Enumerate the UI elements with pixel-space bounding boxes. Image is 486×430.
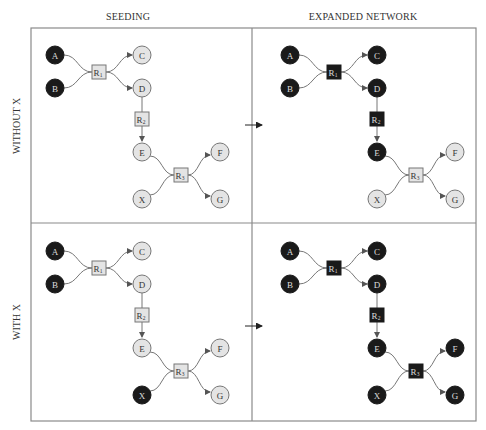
node-label: E [139,344,145,354]
node-label: E [374,148,380,158]
column-title-seeding: SEEDING [106,11,150,22]
edge-e-r3 [385,352,409,371]
node-label: E [374,344,380,354]
reaction-r3: R3 [174,168,188,182]
node-label: X [374,391,381,401]
node-label: F [452,148,457,158]
figure-frame [31,28,476,421]
node-label: G [217,391,224,401]
edge-e-r3 [385,156,409,175]
node-label: B [287,280,293,290]
node-label: G [452,195,459,205]
edge-r3-g [423,175,445,196]
edge-a-r1 [64,251,92,268]
network-expansion-figure: SEEDING EXPANDED NETWORK WITHOUT X WITH … [0,0,486,430]
node-label: B [52,280,58,290]
node-label: D [139,84,146,94]
edge-r1-d [106,268,132,284]
row-title-without-x: WITHOUT X [11,97,22,154]
node-x: X [133,386,151,404]
edge-e-r3 [150,352,174,371]
edge-a-r1 [299,55,327,72]
reaction-r3: R3 [409,364,423,378]
reaction-r2: R2 [370,308,384,322]
edge-x-r3 [385,371,409,391]
panel-without_x-expanded: ABCDEFGXR1R2R3 [281,46,464,208]
panel-with_x-expanded: ABCDEFGXR1R2R3 [281,242,464,404]
edge-r3-f [423,351,445,371]
node-a: A [281,46,299,64]
node-label: D [139,280,146,290]
node-label: B [52,84,58,94]
edge-b-r1 [64,268,92,284]
node-e: E [133,143,151,161]
node-d: D [368,79,386,97]
edge-b-r1 [64,72,92,88]
node-label: F [217,344,222,354]
edge-b-r1 [299,72,327,88]
node-f: F [211,143,229,161]
reaction-r1: R1 [92,261,106,275]
reaction-r1: R1 [327,65,341,79]
node-g: G [211,190,229,208]
node-x: X [368,190,386,208]
node-label: A [287,247,294,257]
edge-r3-f [188,155,210,175]
edge-a-r1 [299,251,327,268]
node-label: B [287,84,293,94]
node-x: X [368,386,386,404]
node-b: B [46,275,64,293]
edge-x-r3 [385,175,409,195]
node-label: C [374,51,380,61]
node-label: C [139,247,145,257]
edge-e-r3 [150,156,174,175]
node-g: G [446,386,464,404]
edge-r3-f [423,155,445,175]
node-label: F [452,344,457,354]
node-x: X [133,190,151,208]
edge-r1-d [341,268,367,284]
node-label: E [139,148,145,158]
node-b: B [281,79,299,97]
node-label: D [374,84,381,94]
node-e: E [133,339,151,357]
node-label: A [287,51,294,61]
node-d: D [133,79,151,97]
reaction-r3: R3 [409,168,423,182]
node-b: B [281,275,299,293]
node-c: C [368,46,386,64]
node-label: D [374,280,381,290]
node-label: X [374,195,381,205]
node-label: G [217,195,224,205]
edge-x-r3 [150,371,174,391]
node-label: X [139,195,146,205]
reaction-r1: R1 [327,261,341,275]
node-label: F [217,148,222,158]
node-c: C [133,242,151,260]
reaction-r1: R1 [92,65,106,79]
edge-r1-c [341,55,367,72]
edge-b-r1 [299,268,327,284]
node-f: F [211,339,229,357]
edge-a-r1 [64,55,92,72]
node-label: C [374,247,380,257]
row-title-with-x: WITH X [11,303,22,340]
node-c: C [133,46,151,64]
node-label: C [139,51,145,61]
node-label: A [52,51,59,61]
node-d: D [133,275,151,293]
reaction-r2: R2 [135,308,149,322]
edge-r3-g [423,371,445,392]
edge-r1-c [106,55,132,72]
node-f: F [446,143,464,161]
panel-with_x-seeding: ABCDEFGXR1R2R3 [46,242,229,404]
node-b: B [46,79,64,97]
node-a: A [46,242,64,260]
node-g: G [446,190,464,208]
node-e: E [368,143,386,161]
node-d: D [368,275,386,293]
node-e: E [368,339,386,357]
column-title-expanded-network: EXPANDED NETWORK [309,11,418,22]
edge-x-r3 [150,175,174,195]
node-label: G [452,391,459,401]
